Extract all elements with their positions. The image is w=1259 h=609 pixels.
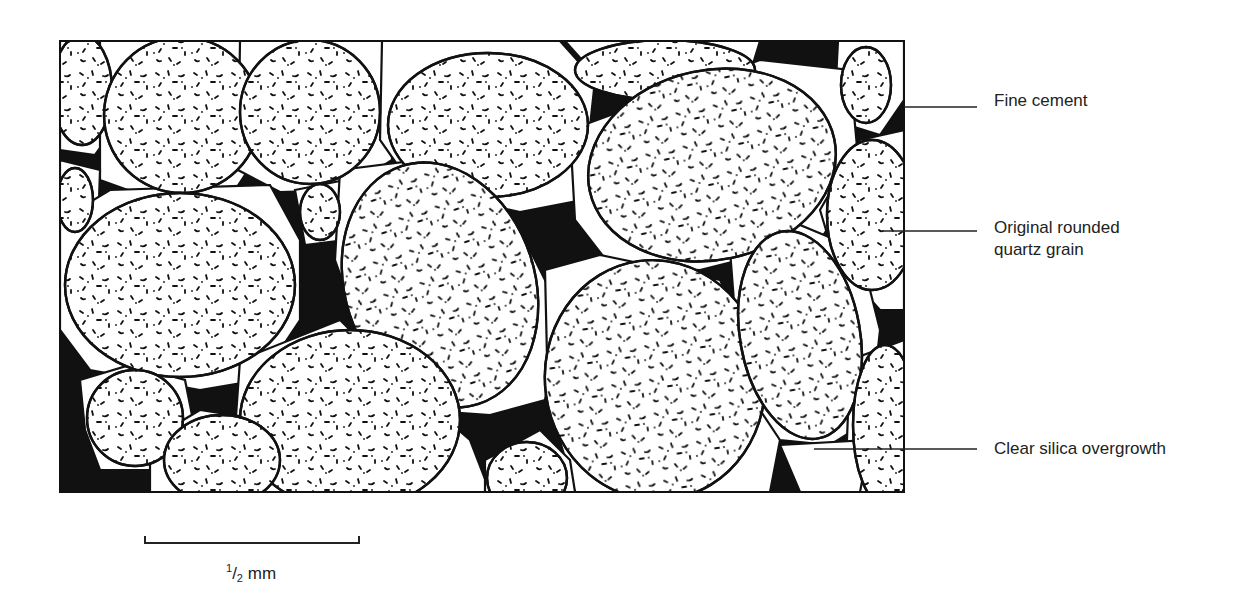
scale-bar [145, 536, 359, 544]
scale-denominator: 2 [237, 572, 243, 584]
label-grain-line1: Original rounded [994, 217, 1120, 239]
scale-unit: mm [248, 564, 276, 583]
label-original-quartz-grain: Original rounded quartz grain [994, 217, 1120, 261]
scale-bar-label: 1/2 mm [226, 562, 276, 584]
thin-section [52, 35, 917, 514]
label-fine-cement: Fine cement [994, 90, 1088, 112]
label-clear-silica-overgrowth: Clear silica overgrowth [994, 438, 1166, 460]
label-grain-line2: quartz grain [994, 239, 1120, 261]
